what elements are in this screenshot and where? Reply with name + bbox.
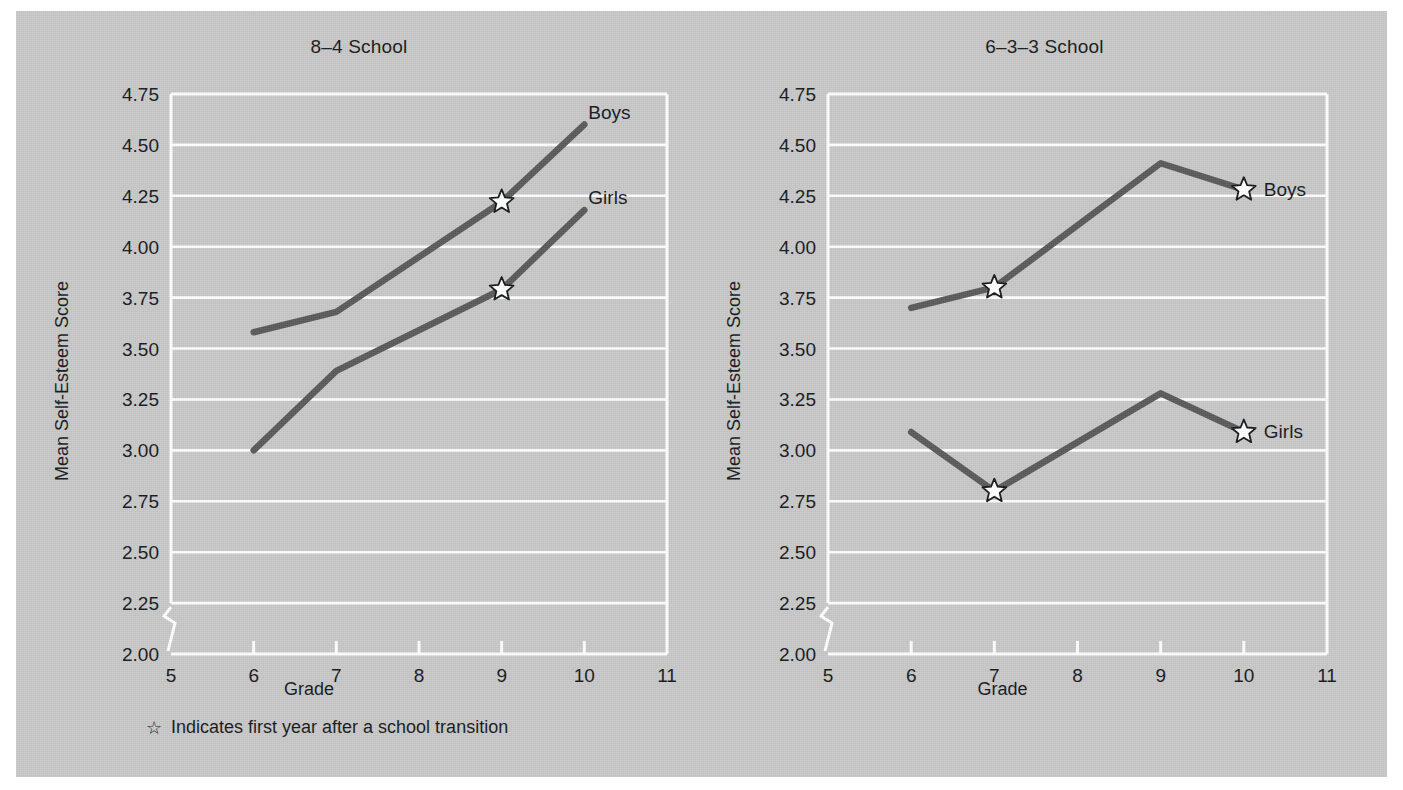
y-tick-label: 3.00 <box>779 440 816 461</box>
axis-break-marker <box>164 607 175 651</box>
y-tick-label: 3.50 <box>122 339 159 360</box>
y-tick-label: 2.75 <box>779 491 816 512</box>
y-tick-label: 2.75 <box>122 491 159 512</box>
x-axis-label-right: Grade <box>660 679 1345 700</box>
y-tick-label: 3.25 <box>122 389 159 410</box>
y-tick-label: 4.50 <box>779 135 816 156</box>
star-icon: ☆ <box>146 719 162 737</box>
figure-root: 8–4 School 2.002.252.502.753.003.253.503… <box>0 0 1403 790</box>
y-tick-label: 4.25 <box>779 186 816 207</box>
footnote-text-left: Indicates first year after a school tran… <box>171 717 508 738</box>
series-label-girls: Girls <box>588 187 627 208</box>
chart-panel-8-4: 8–4 School 2.002.252.502.753.003.253.503… <box>16 11 702 777</box>
series-label-boys: Boys <box>1264 179 1306 200</box>
y-tick-label: 3.50 <box>779 339 816 360</box>
y-tick-label: 4.50 <box>122 135 159 156</box>
chart-plot-left: 2.002.252.502.753.003.253.503.754.004.25… <box>16 11 702 711</box>
footnote-left: ☆ Indicates first year after a school tr… <box>146 717 508 738</box>
axis-break-marker <box>821 607 832 651</box>
y-tick-label: 2.50 <box>779 542 816 563</box>
y-axis-label-left: Mean Self-Esteem Score <box>52 281 73 481</box>
series-line-boys <box>254 125 585 333</box>
y-tick-label: 2.00 <box>122 644 159 665</box>
series-label-girls: Girls <box>1264 421 1303 442</box>
figure-plate: 8–4 School 2.002.252.502.753.003.253.503… <box>16 11 1387 777</box>
y-tick-label: 2.25 <box>779 593 816 614</box>
chart-panel-6-3-3: 6–3–3 School 2.002.252.502.753.003.253.5… <box>702 11 1387 777</box>
y-tick-label: 3.75 <box>122 288 159 309</box>
y-tick-label: 2.25 <box>122 593 159 614</box>
transition-star-marker <box>1232 420 1256 443</box>
series-line-boys <box>911 163 1244 308</box>
y-tick-label: 2.50 <box>122 542 159 563</box>
y-tick-label: 2.00 <box>779 644 816 665</box>
y-tick-label: 4.75 <box>122 84 159 105</box>
y-tick-label: 4.00 <box>122 237 159 258</box>
series-line-girls <box>911 393 1244 491</box>
y-tick-label: 4.25 <box>122 186 159 207</box>
y-tick-label: 3.25 <box>779 389 816 410</box>
y-tick-label: 3.00 <box>122 440 159 461</box>
y-axis-label-right: Mean Self-Esteem Score <box>724 281 745 481</box>
series-label-boys: Boys <box>588 102 630 123</box>
chart-plot-right: 2.002.252.502.753.003.253.503.754.004.25… <box>702 11 1387 711</box>
y-tick-label: 3.75 <box>779 288 816 309</box>
y-tick-label: 4.75 <box>779 84 816 105</box>
x-axis-label-left: Grade <box>0 679 652 700</box>
y-tick-label: 4.00 <box>779 237 816 258</box>
